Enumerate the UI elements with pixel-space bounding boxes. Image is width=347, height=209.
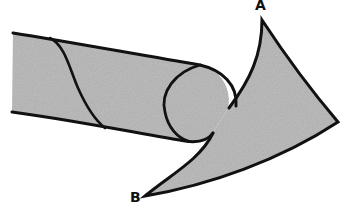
tube-body <box>12 33 229 141</box>
twisted-arrow-diagram <box>0 0 347 209</box>
label-b: B <box>130 190 141 204</box>
label-a: A <box>255 0 266 12</box>
